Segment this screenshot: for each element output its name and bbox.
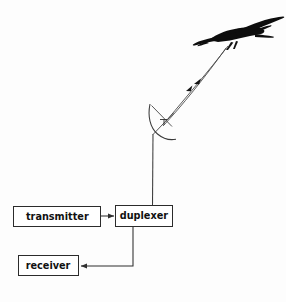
link-duplexer-receiver: [81, 227, 133, 266]
node-receiver: receiver: [18, 255, 79, 276]
aircraft-silhouette: [193, 16, 285, 50]
node-transmitter: transmitter: [13, 206, 101, 227]
radar-diagram-canvas: transmitter duplexer receiver: [0, 0, 286, 302]
node-receiver-label: receiver: [26, 261, 71, 271]
antenna-mast: [153, 134, 154, 205]
node-transmitter-label: transmitter: [26, 212, 89, 222]
node-duplexer: duplexer: [115, 205, 173, 227]
node-duplexer-label: duplexer: [120, 211, 168, 221]
